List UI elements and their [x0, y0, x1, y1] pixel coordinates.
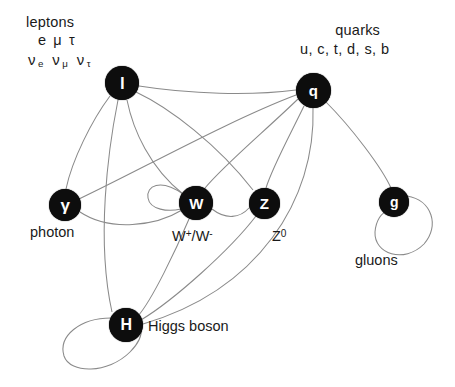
- edge-wboson-self-loop: [148, 185, 183, 210]
- node-quark-glyph: q: [309, 83, 318, 98]
- gluon-caption: gluons: [355, 252, 398, 268]
- nu-tau: ντ: [77, 51, 93, 68]
- quarks-family-label: quarks u, c, t, d, s, b: [300, 22, 389, 57]
- edge-lepton-quark: [139, 86, 296, 93]
- node-zboson[interactable]: Z: [249, 188, 280, 219]
- node-lepton-glyph: l: [120, 75, 124, 92]
- leptons-title: leptons: [26, 14, 93, 30]
- quarks-title: quarks: [326, 22, 389, 38]
- node-photon-glyph: γ: [61, 197, 70, 214]
- edge-quark-photon: [79, 95, 296, 199]
- leptons-neutrino-row: νe νμ ντ: [28, 51, 93, 69]
- node-wboson[interactable]: W: [179, 186, 213, 220]
- node-gluon[interactable]: g: [379, 187, 409, 217]
- edge-lepton-photon: [66, 96, 110, 189]
- nu-mu: νμ: [52, 51, 70, 68]
- node-gluon-glyph: g: [390, 195, 398, 209]
- node-lepton[interactable]: l: [105, 66, 139, 100]
- quarks-flavors-row: u, c, t, d, s, b: [300, 41, 389, 57]
- node-quark[interactable]: q: [296, 73, 331, 108]
- zboson-caption: Z0: [272, 228, 287, 244]
- nu-e: νe: [28, 51, 46, 68]
- edge-quark-gluon: [326, 102, 391, 188]
- leptons-charged-row: e μ τ: [38, 32, 93, 48]
- edge-lepton-wboson: [127, 100, 183, 194]
- edge-lepton-higgs: [104, 100, 118, 312]
- node-higgs-glyph: H: [120, 317, 131, 333]
- edge-quark-zboson: [266, 106, 304, 188]
- edge-quark-wboson: [205, 99, 298, 188]
- higgs-caption: Higgs boson: [148, 318, 229, 334]
- diagram-canvas: leptons e μ τ νe νμ ντ quarks u, c, t, d…: [0, 0, 455, 387]
- wboson-caption: W+/W-: [172, 228, 213, 244]
- node-wboson-glyph: W: [189, 196, 203, 211]
- leptons-family-label: leptons e μ τ νe νμ ντ: [26, 14, 93, 69]
- node-zboson-glyph: Z: [260, 196, 269, 211]
- node-photon[interactable]: γ: [49, 189, 81, 221]
- edge-photon-wboson: [80, 210, 182, 225]
- node-higgs[interactable]: H: [109, 308, 143, 342]
- photon-caption: photon: [30, 224, 74, 240]
- edge-wboson-zboson: [212, 208, 249, 216]
